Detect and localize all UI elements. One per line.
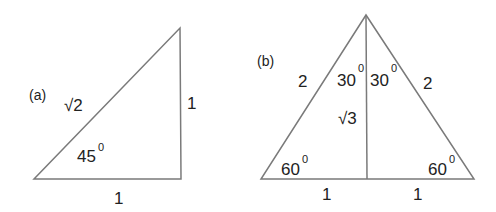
diagram-canvas: (a) √2 1 1 45 0 (b) 2 2 30 0 30 0 √3 60 … [0, 0, 496, 212]
triangle-a: (a) √2 1 1 45 0 [29, 28, 196, 208]
base-left-label: 1 [322, 185, 331, 204]
vertical-side-label: 1 [187, 94, 196, 113]
degree-symbol: 0 [391, 62, 397, 74]
base-label: 1 [114, 189, 123, 208]
top-left-angle-label: 30 [337, 71, 356, 90]
right-side-label: 2 [423, 74, 432, 93]
degree-symbol: 0 [449, 153, 455, 165]
bottom-right-angle-label: 60 [428, 160, 447, 179]
angle-45-label: 45 [77, 147, 96, 166]
top-right-angle-label: 30 [370, 71, 389, 90]
triangle-b-label: (b) [257, 53, 274, 69]
triangle-a-label: (a) [29, 87, 46, 103]
left-side-label: 2 [298, 72, 307, 91]
bottom-left-angle-label: 60 [281, 160, 300, 179]
triangle-b: (b) 2 2 30 0 30 0 √3 60 0 60 0 1 1 [257, 15, 474, 204]
base-right-label: 1 [413, 185, 422, 204]
triangle-b-altitude [366, 15, 367, 179]
height-label: √3 [338, 109, 357, 128]
hypotenuse-label: √2 [64, 96, 83, 115]
degree-symbol: 0 [358, 62, 364, 74]
triangle-a-shape [34, 28, 181, 179]
degree-symbol: 0 [302, 153, 308, 165]
degree-symbol: 0 [98, 141, 104, 153]
